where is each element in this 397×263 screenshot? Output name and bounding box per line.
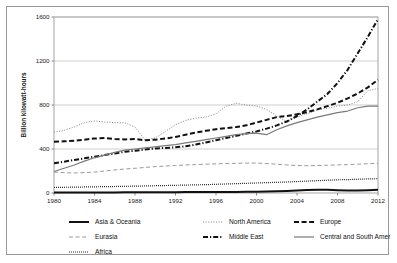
- legend-label-europe: Europe: [320, 218, 342, 226]
- xtick-label-2012: 2012: [371, 197, 385, 204]
- legend-label-central-and-south-america: Central and South America: [320, 233, 390, 240]
- legend-label-asia-oceania: Asia & Oceania: [95, 218, 141, 225]
- ytick-label-1600: 1600: [36, 13, 50, 20]
- ytick-label-400: 400: [39, 145, 50, 152]
- xtick-label-1996: 1996: [209, 197, 223, 204]
- xtick-label-1984: 1984: [88, 197, 102, 204]
- line-chart: 0400800120016001980198419881992199620002…: [7, 7, 390, 256]
- xtick-label-1980: 1980: [47, 197, 61, 204]
- ytick-label-800: 800: [39, 101, 50, 108]
- ytick-label-1200: 1200: [36, 57, 50, 64]
- xtick-label-1988: 1988: [128, 197, 142, 204]
- xtick-label-1992: 1992: [169, 197, 183, 204]
- y-axis-label: Billion kilowatt-hours: [20, 72, 27, 137]
- legend-label-north-america: North America: [229, 218, 271, 225]
- xtick-label-2008: 2008: [331, 197, 345, 204]
- screenshot-root: 0400800120016001980198419881992199620002…: [0, 0, 397, 263]
- legend-label-africa: Africa: [95, 248, 112, 255]
- xtick-label-2004: 2004: [290, 197, 304, 204]
- legend-label-eurasia: Eurasia: [95, 233, 118, 240]
- chart-frame: 0400800120016001980198419881992199620002…: [6, 6, 389, 255]
- xtick-label-2000: 2000: [250, 197, 264, 204]
- ytick-label-0: 0: [46, 189, 50, 196]
- legend-label-middle-east: Middle East: [229, 233, 264, 240]
